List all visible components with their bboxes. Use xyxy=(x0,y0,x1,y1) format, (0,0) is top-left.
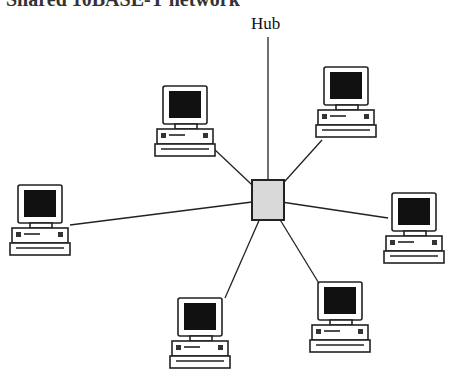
keyboard-icon xyxy=(155,144,215,156)
keyboard-icon xyxy=(316,125,376,137)
monitor-screen xyxy=(330,72,362,99)
monitor-screen xyxy=(184,303,216,330)
keyboard-icon xyxy=(310,340,370,352)
computer-left xyxy=(10,185,70,255)
keyboard-icon xyxy=(384,251,444,263)
monitor-screen xyxy=(324,287,356,314)
computer-top-right xyxy=(316,67,376,137)
computer-left-cable xyxy=(70,200,268,225)
hub-box xyxy=(252,180,284,220)
keyboard-icon xyxy=(170,356,230,368)
monitor-screen xyxy=(24,190,56,217)
computer-right-cable xyxy=(268,200,388,218)
computer-top-left xyxy=(155,86,215,156)
network-diagram xyxy=(0,0,462,385)
computer-right xyxy=(384,193,444,263)
monitor-screen xyxy=(398,198,430,225)
monitor-screen xyxy=(169,91,201,118)
computer-bottom-left xyxy=(170,298,230,368)
keyboard-icon xyxy=(10,243,70,255)
computer-bottom-right xyxy=(310,282,370,352)
